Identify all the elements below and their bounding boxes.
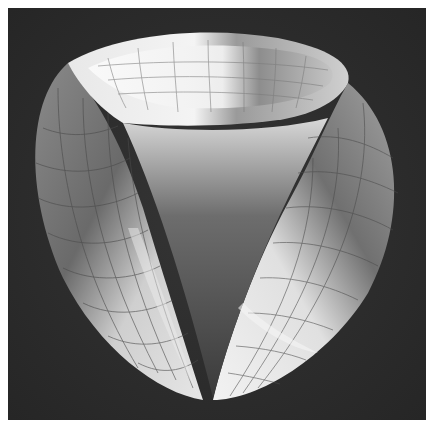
plaster-surface-model bbox=[8, 8, 426, 420]
photograph bbox=[8, 8, 426, 420]
